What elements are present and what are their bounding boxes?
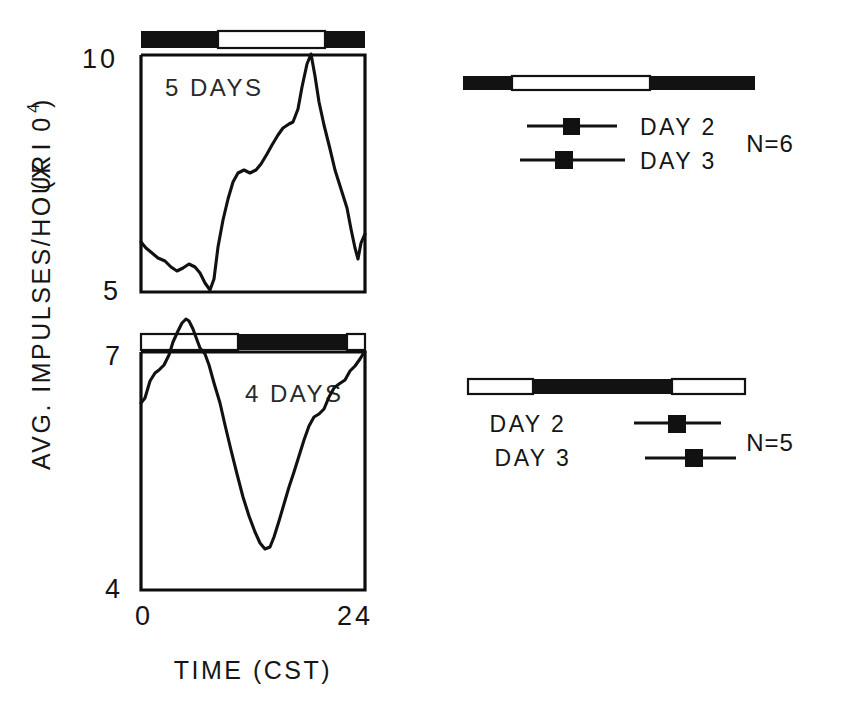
bar-segment-dark <box>325 31 365 48</box>
bottom-panel: 7 4 4 DAYS 0 24 TIME (CST) <box>105 319 373 684</box>
series-marker-square <box>563 118 580 135</box>
legend-top-row-day3: DAY 3 <box>520 148 717 174</box>
y-axis-label-group: AVG. IMPULSES/HOUR (X I 0 4 ) <box>24 97 55 470</box>
legend-top: DAY 2 DAY 3 N=6 <box>463 76 794 174</box>
legend-bottom: DAY 2 DAY 3 N=5 <box>468 379 794 471</box>
series-marker-square <box>685 449 703 467</box>
legend-label-day2: DAY 2 <box>490 411 567 437</box>
x-tick-left: 0 <box>135 601 153 631</box>
legend-top-n-label: N=6 <box>746 130 794 157</box>
bar-segment-light <box>347 334 365 350</box>
legend-bar-segment-dark <box>533 379 672 394</box>
bar-segment-light <box>218 31 325 48</box>
legend-top-light-dark-bar <box>463 76 755 90</box>
top-panel-ytick-top: 10 <box>82 44 118 74</box>
y-axis-paren-close: ) <box>27 97 55 108</box>
legend-label-day3: DAY 3 <box>640 148 717 174</box>
top-panel: 10 5 5 DAYS <box>82 31 365 306</box>
top-panel-ytick-bottom: 5 <box>103 276 121 306</box>
legend-bottom-row-day2: DAY 2 <box>490 411 721 437</box>
top-panel-label: 5 DAYS <box>165 74 264 101</box>
series-marker-square <box>668 415 686 433</box>
bar-segment-dark <box>141 31 218 48</box>
legend-label-day2: DAY 2 <box>640 114 717 140</box>
bottom-panel-ytick-top: 7 <box>105 341 123 371</box>
legend-bottom-n-label: N=5 <box>746 429 794 456</box>
bar-segment-light <box>141 334 238 350</box>
scientific-figure-canvas: AVG. IMPULSES/HOUR (X I 0 4 ) 10 5 5 DAY… <box>0 0 845 717</box>
series-marker-square <box>555 151 573 169</box>
figure-root: AVG. IMPULSES/HOUR (X I 0 4 ) 10 5 5 DAY… <box>0 0 845 717</box>
legend-bottom-row-day3: DAY 3 <box>495 445 736 471</box>
legend-bar-segment-dark <box>650 76 755 90</box>
x-axis-label: TIME (CST) <box>174 656 332 684</box>
legend-bottom-light-dark-bar <box>468 379 745 394</box>
x-tick-right: 24 <box>337 601 373 631</box>
legend-label-day3: DAY 3 <box>495 445 572 471</box>
legend-bar-segment-light <box>468 379 533 394</box>
y-axis-units: (X I 0 <box>27 115 55 190</box>
y-axis-label: AVG. IMPULSES/HOUR <box>27 153 55 470</box>
bar-segment-dark <box>238 334 347 350</box>
legend-bar-segment-light <box>672 379 745 394</box>
bottom-panel-label: 4 DAYS <box>245 380 344 407</box>
legend-top-row-day2: DAY 2 <box>527 114 717 140</box>
legend-bar-segment-light <box>512 76 650 90</box>
top-panel-light-dark-bar <box>141 31 365 48</box>
legend-bar-segment-dark <box>463 76 512 90</box>
bottom-panel-ytick-bottom: 4 <box>105 574 123 604</box>
